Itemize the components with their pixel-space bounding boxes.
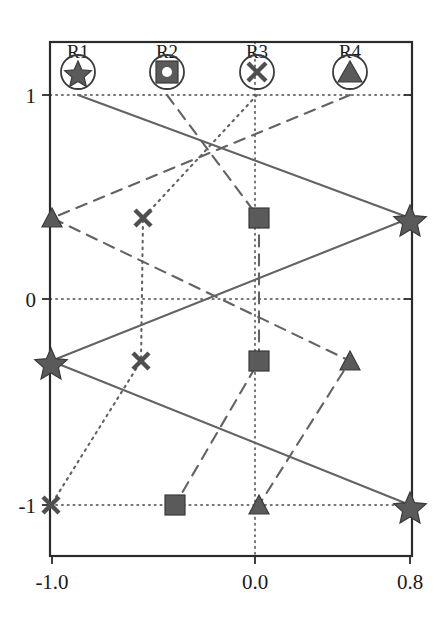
series-line-r1 [51,95,410,505]
x-tick-label-0: 0.0 [242,570,268,594]
y-tick-label-1: 1 [26,84,37,108]
y-tick-label-0: 0 [26,288,37,312]
x-tick-label-neg1: -1.0 [35,570,68,594]
series-line-r4 [52,95,350,505]
legend: R1 R2 R3 R4 [61,41,367,89]
y-axis-ticks [42,95,412,505]
y-tick-label-neg1: -1 [19,494,37,518]
marker-square-r2-p2 [249,208,269,228]
legend-marker-cross-r3 [248,63,266,81]
scatter-chart: 1 0 -1 -1.0 0.0 0.8 [0,0,440,619]
legend-label-r4: R4 [339,41,362,62]
marker-star-r1-p4 [394,492,426,523]
marker-triangle-r4-p2 [42,208,62,227]
gridlines [50,42,412,556]
legend-label-r2: R2 [156,41,178,62]
marker-triangle-r4-p3 [340,351,360,370]
legend-marker-square-inner-r2 [162,67,172,77]
chart-container: 1 0 -1 -1.0 0.0 0.8 [0,0,440,619]
marker-square-r2-p4 [165,495,185,515]
legend-marker-triangle-r4 [338,61,362,82]
legend-item-r1[interactable]: R1 [61,41,95,89]
x-axis-ticks [52,556,410,564]
data-markers [35,205,426,523]
x-tick-label-08: 0.8 [397,570,423,594]
series-line-r3 [51,95,257,505]
legend-item-r2[interactable]: R2 [150,41,184,89]
marker-cross-r3-p2 [135,210,151,226]
marker-star-r1-p2 [394,205,426,236]
series-lines [51,95,410,505]
legend-label-r3: R3 [246,41,268,62]
legend-item-r4[interactable]: R4 [333,41,367,89]
legend-marker-star-r1 [65,61,92,87]
marker-square-r2-p3 [249,351,269,371]
legend-item-r3[interactable]: R3 [240,41,274,89]
legend-label-r1: R1 [67,41,89,62]
